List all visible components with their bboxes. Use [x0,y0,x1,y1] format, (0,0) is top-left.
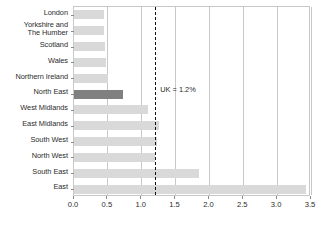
category-tick [71,15,74,16]
category-label: East Midlands [0,120,68,128]
category-tick [71,47,74,48]
category-label: Yorkshire and The Humber [0,21,68,37]
category-tick [71,94,74,95]
bar [74,42,105,51]
category-axis-labels: LondonYorkshire and The HumberScotlandWa… [0,6,68,196]
bar [74,121,159,130]
axis-tick [208,196,209,199]
axis-tick-label: 0.5 [102,200,113,209]
bar [74,169,199,178]
axis-tick [174,196,175,199]
category-tick [71,110,74,111]
bar [74,10,104,19]
axis-tick-label: 3.5 [305,200,316,209]
axis-tick-label: 3.0 [271,200,282,209]
category-label: East [0,183,68,191]
category-label: London [0,9,68,17]
axis-tick-label: 2.5 [237,200,248,209]
axis-tick [310,196,311,199]
value-axis: 0.00.51.01.52.02.53.03.5 [73,196,310,222]
bar [74,90,123,99]
category-tick [71,62,74,63]
bar [74,105,148,114]
category-label: Northern Ireland [0,73,68,81]
uk-reference-label: UK = 1.2% [160,85,196,94]
bar [74,137,157,146]
axis-tick [106,196,107,199]
bar [74,185,306,194]
bar [74,58,106,67]
gridline [277,7,278,195]
axis-tick-label: 1.5 [169,200,180,209]
category-label: South West [0,136,68,144]
axis-tick-label: 1.0 [135,200,146,209]
uk-reference-line [155,7,156,195]
category-label: North East [0,88,68,96]
category-tick [71,78,74,79]
category-tick [71,126,74,127]
bar [74,153,155,162]
bar [74,26,104,35]
axis-tick-label: 0.0 [68,200,79,209]
axis-tick [140,196,141,199]
category-label: South East [0,168,68,176]
bar-chart: LondonYorkshire and The HumberScotlandWa… [0,0,330,225]
category-label: Wales [0,57,68,65]
axis-tick [276,196,277,199]
gridline [141,7,142,195]
plot-area: UK = 1.2% [73,6,310,196]
category-label: West Midlands [0,104,68,112]
gridline [311,7,312,195]
axis-tick [73,196,74,199]
category-tick [71,157,74,158]
axis-tick [242,196,243,199]
gridline [175,7,176,195]
axis-tick-label: 2.0 [203,200,214,209]
category-tick [71,31,74,32]
category-tick [71,189,74,190]
category-label: Scotland [0,41,68,49]
plot-inner: UK = 1.2% [74,7,309,195]
bar [74,74,108,83]
gridline [209,7,210,195]
gridline [243,7,244,195]
category-tick [71,142,74,143]
category-tick [71,173,74,174]
category-label: North West [0,152,68,160]
gridline [107,7,108,195]
